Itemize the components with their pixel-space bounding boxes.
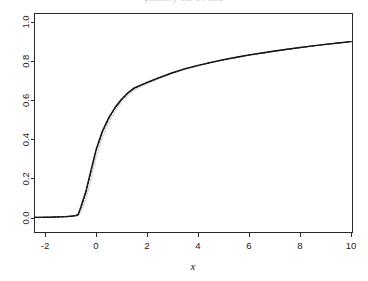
x-tick-label: 4 [195, 240, 200, 251]
y-axis-tick-labels: 0.00.20.40.60.81.0 [20, 15, 31, 224]
chart-title-clipped: partially cut off title [0, 0, 368, 3]
x-tick-label: 8 [297, 240, 302, 251]
x-axis-tick-labels: -20246810 [41, 240, 357, 251]
y-axis-ticks [31, 22, 35, 218]
y-tick-label: 1.0 [20, 15, 31, 28]
curve-dotted-curve [35, 42, 351, 218]
y-tick-label: 0.6 [20, 94, 31, 107]
y-tick-label: 0.2 [20, 172, 31, 185]
chart-figure: partially cut off title 0.00.20.40.60.81… [0, 0, 368, 281]
x-axis-ticks [45, 233, 351, 237]
data-curves [35, 42, 351, 218]
x-tick-label: 0 [93, 240, 98, 251]
curve-dashed-curve [35, 42, 351, 218]
x-axis-title: x [190, 260, 196, 272]
x-tick-label: 10 [346, 240, 357, 251]
curve-solid-curve [35, 42, 351, 218]
y-tick-label: 0.0 [20, 211, 31, 224]
x-tick-label: 2 [144, 240, 149, 251]
x-tick-label: -2 [41, 240, 49, 251]
x-tick-label: 6 [246, 240, 251, 251]
plot-canvas: 0.00.20.40.60.81.0 -20246810 x [0, 0, 368, 281]
y-tick-label: 0.8 [20, 55, 31, 68]
y-tick-label: 0.4 [20, 133, 31, 146]
